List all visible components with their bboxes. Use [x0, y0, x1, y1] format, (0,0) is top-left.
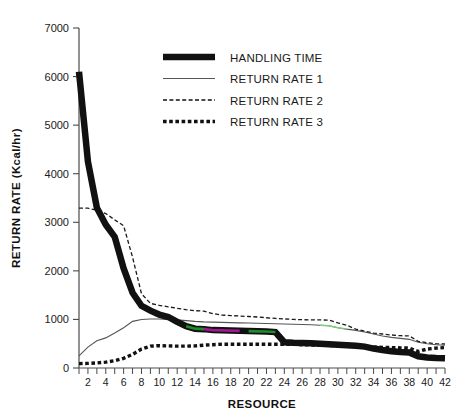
- y-tick-label: 7000: [45, 22, 69, 34]
- line-chart: 01000200030004000500060007000 2468101214…: [0, 0, 457, 418]
- x-tick-label: 12: [171, 376, 183, 388]
- x-tick-label: 18: [225, 376, 237, 388]
- y-axis-ticks: 01000200030004000500060007000: [45, 22, 79, 374]
- x-tick-label: 30: [332, 376, 344, 388]
- x-tick-label: 22: [261, 376, 273, 388]
- x-axis-ticks: 24681012141618202224262830323436384042: [79, 368, 451, 388]
- x-tick-label: 32: [350, 376, 362, 388]
- x-tick-label: 16: [207, 376, 219, 388]
- x-tick-label: 2: [85, 376, 91, 388]
- y-tick-label: 6000: [45, 71, 69, 83]
- y-tick-label: 2000: [45, 265, 69, 277]
- accent-segment: [249, 331, 276, 332]
- y-tick-label: 3000: [45, 216, 69, 228]
- y-tick-label: 4000: [45, 168, 69, 180]
- x-tick-label: 26: [296, 376, 308, 388]
- x-tick-label: 20: [243, 376, 255, 388]
- chart-container: 01000200030004000500060007000 2468101214…: [0, 0, 457, 418]
- x-tick-label: 24: [278, 376, 290, 388]
- legend-label: RETURN RATE 3: [230, 116, 323, 128]
- x-tick-label: 8: [139, 376, 145, 388]
- y-axis-title: RETURN RATE (Kcal/hr): [10, 128, 22, 268]
- x-tick-label: 6: [121, 376, 127, 388]
- x-tick-label: 34: [368, 376, 380, 388]
- x-axis-title: RESOURCE: [228, 398, 296, 410]
- y-tick-label: 0: [63, 362, 69, 374]
- x-tick-label: 38: [403, 376, 415, 388]
- y-tick-label: 5000: [45, 119, 69, 131]
- legend-label: RETURN RATE 1: [230, 73, 323, 85]
- x-tick-label: 40: [421, 376, 433, 388]
- legend-label: RETURN RATE 2: [230, 95, 323, 107]
- x-tick-label: 14: [189, 376, 201, 388]
- x-tick-label: 10: [153, 376, 165, 388]
- x-tick-label: 42: [439, 376, 451, 388]
- series-line-handling-time: [79, 72, 445, 359]
- x-tick-label: 36: [386, 376, 398, 388]
- x-tick-label: 4: [103, 376, 109, 388]
- chart-legend: HANDLING TIMERETURN RATE 1RETURN RATE 2R…: [163, 52, 323, 129]
- accent-segment: [320, 325, 347, 329]
- legend-label: HANDLING TIME: [230, 52, 323, 64]
- y-tick-label: 1000: [45, 313, 69, 325]
- x-tick-label: 28: [314, 376, 326, 388]
